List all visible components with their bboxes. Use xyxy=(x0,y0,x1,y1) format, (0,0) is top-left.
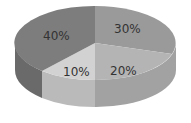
label-slice-10: 10% xyxy=(63,65,90,79)
label-slice-30: 30% xyxy=(114,22,141,36)
pie-chart: 30% 20% 10% 40% xyxy=(0,0,191,123)
label-slice-20: 20% xyxy=(110,64,137,78)
label-slice-40: 40% xyxy=(43,29,70,43)
pie-top xyxy=(14,6,175,80)
